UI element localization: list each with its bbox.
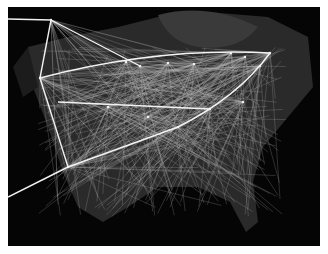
hub-node [193,63,195,65]
hub-node [50,19,52,21]
hub-node [177,126,179,128]
hub-node [139,65,141,67]
hub-node [269,52,271,54]
highlight-route [8,167,68,197]
network-map-image [8,7,320,246]
hub-node [167,62,169,64]
hub-node [67,166,69,168]
hub-node [209,108,211,110]
hub-node [107,106,109,108]
flight-network-visualization [8,7,320,246]
hub-node [244,56,246,58]
hub-node [259,65,261,67]
hub-node [125,61,127,63]
hub-node [39,77,41,79]
highlight-route [8,19,51,20]
hub-node [242,101,244,103]
hub-node [147,116,149,118]
hub-node [230,52,232,54]
